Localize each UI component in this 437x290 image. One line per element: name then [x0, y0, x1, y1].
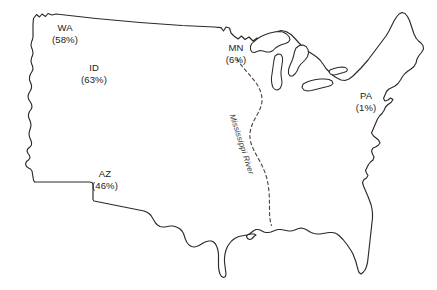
state-abbr-pa: PA [346, 90, 386, 102]
state-percent-mn: (6%) [216, 54, 256, 66]
state-label-id: ID (63%) [74, 62, 114, 85]
state-abbr-wa: WA [45, 22, 85, 34]
state-percent-id: (63%) [74, 74, 114, 86]
state-abbr-mn: MN [216, 42, 256, 54]
us-map-figure: WA (58%) ID (63%) MN (6%) AZ (46%) PA (1… [0, 0, 437, 290]
lake-ontario-path [329, 67, 348, 75]
state-label-wa: WA (58%) [45, 22, 85, 45]
state-percent-pa: (1%) [346, 102, 386, 114]
state-abbr-az: AZ [85, 168, 125, 180]
state-label-pa: PA (1%) [346, 90, 386, 113]
state-abbr-id: ID [74, 62, 114, 74]
state-percent-wa: (58%) [45, 34, 85, 46]
state-label-az: AZ (46%) [85, 168, 125, 191]
state-percent-az: (46%) [85, 180, 125, 192]
state-label-mn: MN (6%) [216, 42, 256, 65]
